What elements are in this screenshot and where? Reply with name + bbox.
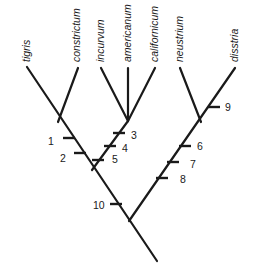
branch-disstria-to-join bbox=[129, 68, 235, 221]
taxon-label-constrictum: constrictum bbox=[70, 8, 82, 62]
branch-incurvum bbox=[101, 68, 128, 121]
cladogram: tigrisconstrictumincurvumamericanumcalif… bbox=[0, 0, 262, 272]
taxon-label-tigris: tigris bbox=[20, 39, 32, 62]
taxon-label-incurvum: incurvum bbox=[94, 19, 106, 62]
character-number: 4 bbox=[122, 142, 128, 154]
taxon-label-americanum: americanum bbox=[121, 4, 133, 62]
branches bbox=[27, 67, 235, 261]
character-numbers: 12345678910 bbox=[48, 101, 231, 211]
character-number: 10 bbox=[93, 199, 105, 211]
character-number: 9 bbox=[225, 101, 231, 113]
taxon-label-disstria: disstria bbox=[228, 29, 240, 62]
character-number: 1 bbox=[48, 135, 54, 147]
branch-californicum bbox=[128, 68, 155, 121]
taxon-label-californicum: californicum bbox=[148, 6, 160, 62]
character-number: 3 bbox=[131, 129, 137, 141]
branch-constrictum bbox=[58, 68, 78, 122]
character-number: 6 bbox=[197, 140, 203, 152]
taxon-labels: tigrisconstrictumincurvumamericanumcalif… bbox=[20, 4, 240, 62]
branch-neustrium bbox=[180, 68, 201, 122]
taxon-label-neustrium: neustrium bbox=[173, 16, 185, 62]
character-number: 2 bbox=[60, 152, 66, 164]
character-number: 8 bbox=[180, 173, 186, 185]
character-number: 7 bbox=[190, 158, 196, 170]
branch-tigris-to-root bbox=[27, 67, 157, 261]
character-number: 5 bbox=[112, 153, 118, 165]
